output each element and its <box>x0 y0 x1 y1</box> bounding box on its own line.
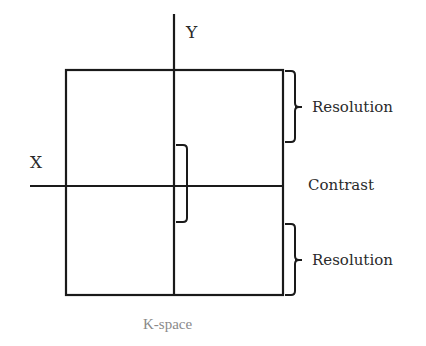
x-axis-label: X <box>30 152 43 172</box>
k-space-diagram: Y X Resolution Contrast Resolution K-spa… <box>0 0 426 346</box>
center-bracket <box>176 145 187 222</box>
y-axis-label: Y <box>185 22 198 42</box>
contrast-label: Contrast <box>308 176 374 194</box>
caption: K-space <box>143 316 192 332</box>
bottom-resolution-label: Resolution <box>312 251 393 269</box>
top-resolution-label: Resolution <box>312 98 393 116</box>
